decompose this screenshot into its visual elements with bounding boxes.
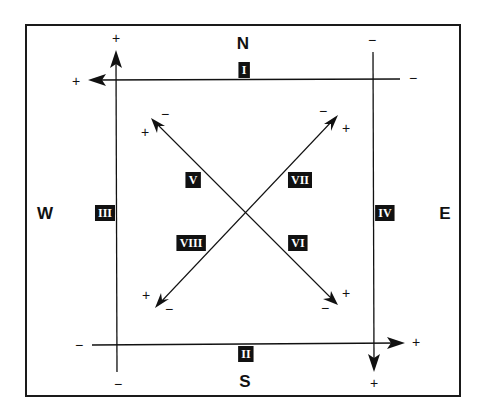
axis-I-minus-sign: − [409,71,417,85]
axis-II-minus-sign: − [75,338,83,352]
axis-II-plus-sign: + [412,335,420,349]
compass-east-label: E [439,205,450,222]
compass-south-label: S [239,373,250,390]
axis-badge-I: I [239,62,250,78]
axis-VI-minus-sign: − [321,301,329,315]
axis-badge-VIII: VIII [177,235,206,251]
axis-VI-plus-sign: + [342,286,350,300]
axis-I-plus-sign: + [72,74,80,88]
axis-VIII-plus-sign: + [142,288,150,302]
axis-IV-plus-sign: + [370,376,378,390]
axis-badge-III: III [95,205,115,221]
axis-III-plus-sign: + [112,31,120,45]
compass-north-label: N [237,35,249,52]
axis-line-III [116,58,117,372]
axis-III-minus-sign: − [114,377,122,391]
axis-line-VII-VIII [159,119,334,304]
axis-VII-plus-sign: + [342,121,350,135]
axis-badge-II: II [238,346,253,362]
direction-diagram: N S W E I II III IV V VI VII VIII + − − … [0,0,486,420]
axis-badge-IV: IV [375,205,394,221]
axis-line-I [95,79,400,80]
axis-badge-V: V [186,172,201,188]
axis-line-IV [373,52,374,364]
axis-V-minus-sign: − [161,107,169,121]
axis-line-V-VI [155,122,334,301]
axis-IV-minus-sign: − [368,33,376,47]
axis-V-plus-sign: + [141,125,149,139]
axis-line-II [92,343,398,345]
compass-west-label: W [37,205,53,222]
axis-badge-VI: VI [288,235,307,251]
axis-badge-VII: VII [288,172,312,188]
axis-VIII-minus-sign: − [165,302,173,316]
axis-VII-minus-sign: − [319,104,327,118]
